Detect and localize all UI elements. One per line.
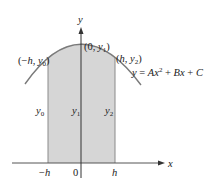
parabola-equation: y = Ax2 + Bx + C	[131, 66, 204, 78]
ordinate-label-y0: y0	[35, 105, 45, 118]
tick-label-pos-h: h	[112, 167, 117, 178]
x-axis-arrow-icon	[158, 161, 165, 166]
tick-label-zero: 0	[73, 167, 78, 178]
y-axis-arrow-icon	[79, 27, 84, 34]
x-axis-label: x	[167, 158, 173, 169]
y-axis-label: y	[77, 14, 83, 25]
tick-label-neg-h: −h	[39, 167, 50, 178]
point-label-left: (−h, y0)	[18, 55, 50, 68]
point-label-right: (h, y2)	[116, 53, 142, 66]
simpson-parabola-diagram: y x (−h, y0) (0, y1) (h, y2) y = Ax2 + B…	[0, 0, 224, 186]
